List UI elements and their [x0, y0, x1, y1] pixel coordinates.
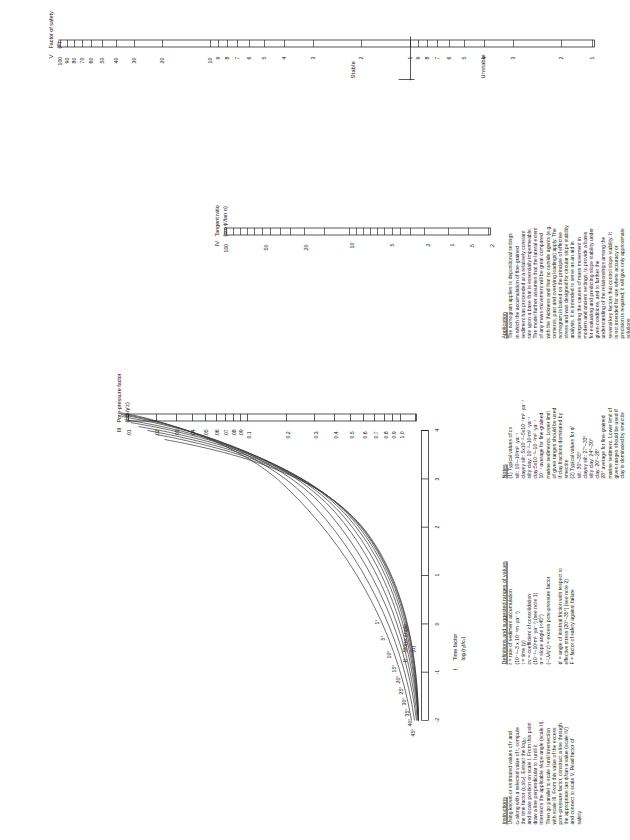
notes-line: (1) Typical values of cv [506, 350, 512, 478]
scale-5-tick: 7 [233, 56, 239, 59]
scale-5-tick: 3 [309, 56, 315, 59]
scale-5-tick: 20 [158, 57, 164, 63]
notes-line: clay is dominated by smectite [618, 350, 624, 478]
definitions-line: ϕ′ = angle of internal friction with res… [556, 492, 562, 664]
notes-line: smectite [562, 350, 568, 478]
notes-block: Notes (1) Typical values of cv silt: 10¹… [500, 350, 624, 478]
unstable-zone-label: Unstable [470, 54, 488, 78]
definitions-line: (−Uᵥ/γ′z) = excess pore-pressure factor [544, 492, 550, 664]
scale-1-tick: -1 [433, 669, 439, 674]
definitions-line: α = slope angle (<45°) [537, 492, 543, 664]
scale-5-tick: 100 [56, 56, 62, 65]
notes-line: clayey silt: 5x10⁻²–5x10⁻¹m² ·ya⁻¹ [519, 350, 525, 478]
scale-4-tick: .2 [488, 244, 494, 248]
scale-5-tick: 2 [557, 56, 563, 59]
notes-line: 28° average for fine-grained [599, 350, 605, 478]
scale-1-subtitle: log (r₀t/cᵥ) [450, 636, 468, 660]
instructions-block: Instructions Using known or estimated va… [500, 674, 581, 824]
unity-tick-icon [398, 76, 416, 82]
scale-3-tick: 1.0 [398, 431, 404, 438]
notes-line: (2) Typical values for ϕ′ [568, 350, 574, 478]
scale-5-tick: 4 [280, 56, 286, 59]
scale-5-tick: 40 [112, 57, 118, 63]
notes-line: 10⁻¹ average for fine-grained [537, 350, 543, 478]
slope-label-25: 25° [388, 686, 406, 694]
notes-line: silty clay: 24°–30° [587, 350, 593, 478]
scale-5-tick: 6 [445, 56, 451, 59]
notes-line: silty clay: 10⁻²–10¹m² ·ya⁻¹ [525, 350, 531, 478]
definitions-block: Definitions and suggested ranges of valu… [500, 492, 574, 664]
scale-4-tick: 5 [388, 243, 394, 246]
notes-line: clayey silt: 27°–33° [581, 350, 587, 478]
application-body: The nomogram applies to depositional set… [506, 146, 630, 338]
scale-1-roman: I [442, 668, 460, 670]
definitions-line: r = rate of sediment accumulation [506, 492, 512, 664]
scale-5-tick: 2 [357, 56, 363, 59]
notes-heading: Notes [500, 350, 506, 478]
factor-of-safety-unity-line [405, 34, 415, 80]
scale-3-roman: III [106, 427, 124, 432]
scale-3-tick: 0.6 [361, 431, 367, 438]
scale-3-tick: .08 [230, 429, 236, 436]
notes-line: if clay fractions dominated by [556, 350, 562, 478]
scale-5-tick: 8 [423, 56, 429, 59]
instructions-body: Using known or estimated values of r and… [506, 674, 580, 824]
scale-4-tick: 50 [262, 244, 268, 250]
slope-label-30: 30° [391, 697, 409, 705]
scale-3-tick: .01 [125, 429, 131, 436]
scale-1-tick: 0 [433, 622, 439, 625]
scale-5-roman: V [38, 54, 56, 58]
definitions-line: effective stress (20°–35°) (see note 2) [562, 492, 568, 664]
scale-4-tick: 1 [448, 243, 454, 246]
scale-5-tick: 8 [223, 56, 229, 59]
definitions-line: t = time (y) [519, 492, 525, 664]
notes-line: marine sediments. Lower limit [544, 350, 550, 478]
slope-label-15: 15° [381, 664, 399, 672]
scale-1-tick: 3 [433, 477, 439, 480]
slope-angle-curves [120, 412, 420, 722]
scale-3-tick: .05 [202, 429, 208, 436]
application-block: Application The nomogram applies to depo… [500, 146, 630, 338]
scale-3-tick: .09 [237, 429, 243, 436]
notes-line: clay:5x10⁻³–10⁻²m² ·ya⁻¹ [531, 350, 537, 478]
scale-5-tick: 80 [70, 57, 76, 63]
scale-3-axis [126, 412, 418, 422]
scale-4-tick: 10 [348, 242, 354, 248]
scale-5-tick: 50 [98, 57, 104, 63]
scale-5-tick: 5 [260, 56, 266, 59]
scale-5-tick: 9 [214, 56, 220, 59]
scale-5-tick: 30 [130, 57, 136, 63]
slope-label-1: 1° [364, 619, 382, 624]
notes-line: silt: 30°–35° [575, 350, 581, 478]
scale-1-tick: 4 [433, 428, 439, 431]
scale-5-tick: 10 [206, 57, 212, 63]
slope-label-35: 35° [394, 708, 412, 716]
notes-line: marine sediment. Lower limit of [606, 350, 612, 478]
notes-line: silt: 10¹–10²m² ·ya⁻¹ [513, 350, 519, 478]
scale-4-tick: .5 [468, 244, 474, 248]
scale-3-tick: 0.4 [332, 431, 338, 438]
scale-5-tick: 90 [63, 57, 69, 63]
instructions-heading: Instructions [500, 674, 506, 824]
notes-line: given ranges should be used if [612, 350, 618, 478]
scale-4-axis [224, 226, 492, 236]
scale-1-tick: -2 [433, 717, 439, 722]
scale-3-tick: 0.3 [312, 431, 318, 438]
scale-4-tick: 2 [424, 243, 430, 246]
scale-4-tick: 20 [302, 244, 308, 250]
slope-label-45: 45° [400, 728, 418, 736]
scale-3-tick: .07 [222, 429, 228, 436]
scale-3-tick: .04 [189, 429, 195, 436]
scale-3-tick: .03 [173, 429, 179, 436]
definitions-line: (10⁻²–10¹m² ·ya⁻¹) (see note 1) [531, 492, 537, 664]
stable-zone-label: Stable [340, 60, 358, 78]
scale-5-tick: 7 [433, 56, 439, 59]
slope-label-5: 5° [370, 635, 388, 640]
scale-5-tick: 5 [460, 56, 466, 59]
scale-3-tick: .02 [153, 429, 159, 436]
slope-label-20: 20° [385, 675, 403, 683]
definitions-line: F = factor of safety against failure [568, 492, 574, 664]
scale-5-tick: 60 [87, 57, 93, 63]
scale-5-axis [58, 38, 598, 48]
